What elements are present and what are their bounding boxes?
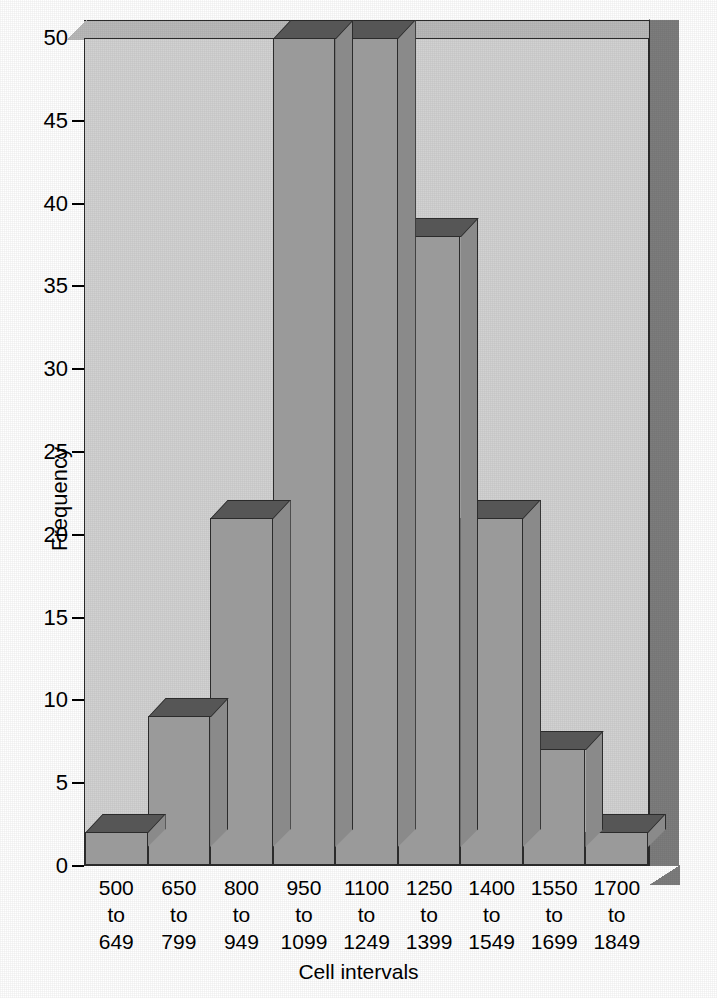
x-axis-category-line: 649 (85, 928, 148, 955)
x-axis-category-label: 1700to1849 (586, 874, 649, 960)
x-axis-category-label: 1400to1549 (460, 874, 523, 960)
histogram-figure: 05101520253035404550 Frequency 500to6496… (0, 0, 717, 998)
x-axis-category-line: 500 (85, 874, 148, 901)
x-axis-category-line: 799 (148, 928, 211, 955)
bar-side-face (460, 218, 478, 847)
bar-side-face (585, 731, 603, 847)
x-axis-title: Cell intervals (0, 960, 717, 984)
bar-front-face (148, 716, 211, 865)
y-axis-tick-label: 30 (8, 356, 68, 382)
x-axis-category-line: 1549 (460, 928, 523, 955)
x-axis-category-line: 650 (148, 874, 211, 901)
y-axis-tick-label: 50 (8, 25, 68, 51)
x-axis-category-line: 1849 (586, 928, 649, 955)
x-axis-category-line: to (586, 901, 649, 928)
x-axis-category-label: 500to649 (85, 874, 148, 960)
x-axis-category-line: to (148, 901, 211, 928)
x-axis-category-label: 1550to1699 (523, 874, 586, 960)
y-axis-tick-mark (72, 534, 84, 536)
y-axis-tick-label: 10 (8, 687, 68, 713)
y-axis-tick-mark (72, 699, 84, 701)
bar-side-face (273, 500, 291, 847)
x-axis-category-line: 1700 (586, 874, 649, 901)
x-axis-category-line: 1399 (398, 928, 461, 955)
y-axis-tick-mark (72, 368, 84, 370)
y-axis-tick-mark (72, 285, 84, 287)
x-axis-category-label: 1100to1249 (335, 874, 398, 960)
x-axis-category-line: 1550 (523, 874, 586, 901)
histogram-bar (85, 832, 148, 865)
y-axis-tick-label: 40 (8, 191, 68, 217)
y-axis-tick-mark (72, 782, 84, 784)
x-axis-category-line: to (460, 901, 523, 928)
x-axis-category-line: 949 (210, 928, 273, 955)
bar-side-face (210, 698, 228, 847)
x-axis-labels: 500to649650to799800to949950to10991100to1… (85, 874, 648, 960)
x-axis-category-line: 950 (273, 874, 336, 901)
plot-area (84, 38, 679, 866)
x-axis-category-line: to (85, 901, 148, 928)
x-axis-category-line: to (523, 901, 586, 928)
y-axis-title: Frequency (47, 447, 73, 551)
x-axis-category-line: 1400 (460, 874, 523, 901)
y-axis-tick-mark (72, 451, 84, 453)
y-axis-tick-label: 0 (8, 853, 68, 879)
chart-top-wall-corner (67, 20, 87, 40)
x-axis-category-line: to (398, 901, 461, 928)
y-axis-tick-label: 45 (8, 108, 68, 134)
x-axis-category-label: 950to1099 (273, 874, 336, 960)
y-axis-tick-mark (72, 617, 84, 619)
x-axis-category-line: 1099 (273, 928, 336, 955)
y-axis-tick-mark (72, 120, 84, 122)
bar-series (85, 38, 648, 865)
bar-side-face (335, 20, 353, 847)
chart-right-wall-bottom-corner (649, 865, 680, 885)
x-axis-category-line: 1699 (523, 928, 586, 955)
y-axis-tick-mark (72, 865, 84, 867)
x-axis-category-line: to (273, 901, 336, 928)
x-axis-category-line: 1250 (398, 874, 461, 901)
x-axis-category-line: 1249 (335, 928, 398, 955)
histogram-bar (148, 716, 211, 865)
x-axis-category-label: 1250to1399 (398, 874, 461, 960)
x-axis-category-line: 1100 (335, 874, 398, 901)
x-axis-category-line: to (210, 901, 273, 928)
y-axis-tick-label: 5 (8, 770, 68, 796)
x-axis-category-label: 800to949 (210, 874, 273, 960)
y-axis-tick-label: 15 (8, 605, 68, 631)
x-axis-category-line: 800 (210, 874, 273, 901)
bar-front-face (85, 832, 148, 865)
x-axis-category-line: to (335, 901, 398, 928)
x-axis-category-label: 650to799 (148, 874, 211, 960)
y-axis-tick-mark (72, 203, 84, 205)
y-axis: 05101520253035404550 (0, 0, 84, 868)
bar-side-face (523, 500, 541, 847)
y-axis-tick-label: 35 (8, 273, 68, 299)
bar-side-face (398, 20, 416, 847)
chart-right-wall (649, 20, 679, 866)
